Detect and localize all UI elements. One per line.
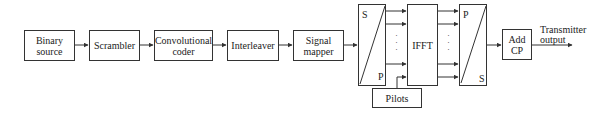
ifft-label: IFFT xyxy=(412,40,433,51)
transmitter-output-label: Transmitter output xyxy=(540,25,600,45)
scrambler-label: Scrambler xyxy=(94,40,135,51)
signal-mapper-label: Signal mapper xyxy=(294,35,343,57)
add-cp-label: Add CP xyxy=(503,34,531,56)
sp-top-label: S xyxy=(362,10,368,20)
ps-top-label: P xyxy=(463,10,469,20)
interleaver-block: Interleaver xyxy=(227,30,279,61)
binary-source-label: Binary source xyxy=(25,35,74,57)
add-cp-block: Add CP xyxy=(502,29,532,60)
convolutional-coder-block: Convolutional coder xyxy=(154,30,213,61)
pilots-block: Pilots xyxy=(372,88,422,108)
ifft-block: IFFT xyxy=(407,4,438,86)
signal-mapper-block: Signal mapper xyxy=(293,30,344,61)
parallel-dots-left: ··· xyxy=(395,32,398,53)
interleaver-label: Interleaver xyxy=(231,40,274,51)
parallel-dots-right: ··· xyxy=(447,32,450,53)
scrambler-block: Scrambler xyxy=(89,30,140,61)
pilots-label: Pilots xyxy=(386,93,409,104)
sp-bottom-label: P xyxy=(378,72,384,82)
convolutional-coder-label: Convolutional coder xyxy=(155,35,212,57)
ps-bottom-label: S xyxy=(479,74,485,84)
binary-source-block: Binary source xyxy=(24,30,75,61)
